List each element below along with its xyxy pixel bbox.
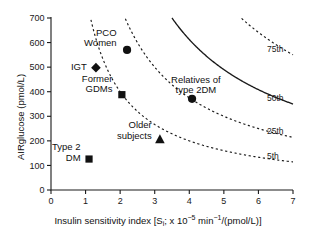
x-tick-label: 3 (152, 196, 157, 206)
y-tick-label: 200 (29, 136, 44, 146)
axes-group: 012345670100200300400500600700 (29, 13, 295, 205)
percentile-label-25th: 25th (267, 126, 284, 136)
data-marker-square (85, 155, 92, 162)
y-tick-label: 500 (29, 62, 44, 72)
data-markers-group (85, 46, 196, 163)
x-tick-label: 0 (48, 196, 53, 206)
x-tick-label: 7 (290, 196, 295, 206)
chart-plot-area: 012345670100200300400500600700 5th25th50… (0, 0, 316, 238)
y-tick-label: 100 (29, 161, 44, 171)
y-tick-label: 700 (29, 13, 44, 23)
point-label-line1: IGT (71, 62, 87, 73)
y-tick-label: 400 (29, 87, 44, 97)
x-tick-label: 1 (83, 196, 88, 206)
point-label-2: FormerGDMs (82, 74, 113, 95)
x-tick-label: 4 (187, 196, 192, 206)
percentile-label-50th: 50th (267, 93, 284, 103)
percentile-label-75th: 75th (267, 44, 284, 54)
point-label-line1: Type 2 (52, 142, 81, 153)
point-label-1: IGT (71, 62, 87, 73)
data-marker-circle (123, 46, 131, 54)
data-marker-diamond (91, 63, 101, 73)
x-tick-label: 6 (256, 196, 261, 206)
point-label-4: Oldersubjects (117, 120, 152, 141)
data-marker-square (118, 91, 125, 98)
x-tick-label: 2 (118, 196, 123, 206)
point-label-line2: Women (84, 38, 117, 49)
point-label-3: Relatives oftype 2DM (171, 75, 221, 96)
data-marker-circle (188, 95, 196, 103)
point-label-line2: type 2DM (171, 85, 221, 96)
y-axis-title: AIRglucose (pmol/L) (15, 74, 26, 160)
point-label-line2: DM (52, 153, 81, 164)
percentile-labels-group: 5th25th50th75th (267, 44, 284, 161)
y-tick-label: 0 (39, 185, 44, 195)
chart-figure: 012345670100200300400500600700 5th25th50… (0, 0, 316, 238)
x-axis-title: Insulin sensitivity index [Si; x 10−5 mi… (0, 215, 316, 226)
x-tick-label: 5 (221, 196, 226, 206)
point-label-line2: subjects (117, 131, 152, 142)
y-tick-label: 300 (29, 111, 44, 121)
percentile-label-5th: 5th (267, 151, 279, 161)
point-label-0: PCOWomen (84, 28, 117, 49)
point-label-line2: GDMs (82, 84, 113, 95)
point-label-5: Type 2DM (52, 142, 81, 163)
y-tick-label: 600 (29, 38, 44, 48)
data-marker-triangle (155, 134, 165, 143)
